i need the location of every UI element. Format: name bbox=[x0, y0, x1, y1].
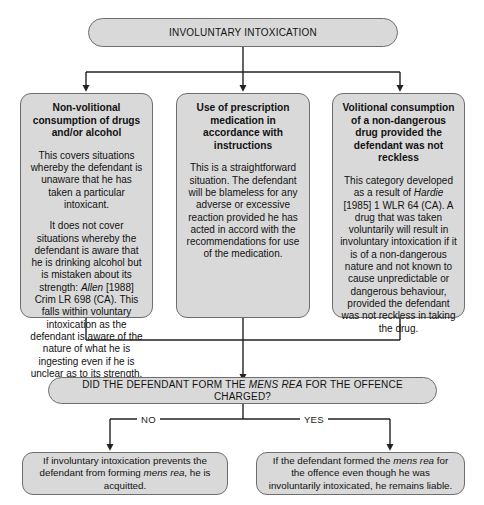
branch-heading: Volitional consumption of a non-dangerou… bbox=[340, 102, 457, 165]
flowchart-canvas: INVOLUNTARY INTOXICATION Non-volitional … bbox=[0, 0, 484, 505]
branch-paragraph: This covers situations whereby the defen… bbox=[28, 150, 145, 211]
decision-node-label: DID THE DEFENDANT FORM THE MENS REA FOR … bbox=[49, 379, 436, 403]
decision-emphasis: MENS REA bbox=[249, 379, 303, 390]
branch-box-non-volitional[interactable]: Non-volitional consumption of drugs and/… bbox=[20, 93, 153, 318]
outcome-emphasis: mens rea bbox=[144, 467, 185, 478]
outcome-box-remains-liable[interactable]: If the defendant formed the mens rea for… bbox=[256, 452, 465, 495]
outcome-emphasis: mens rea bbox=[393, 455, 434, 466]
branch-label-yes: YES bbox=[300, 414, 328, 425]
branch-heading: Use of prescription medication in accord… bbox=[184, 102, 302, 152]
branch-box-non-dangerous-drug[interactable]: Volitional consumption of a non-dangerou… bbox=[332, 93, 465, 318]
outcome-box-acquitted[interactable]: If involuntary intoxication prevents the… bbox=[22, 452, 228, 495]
root-node-label: INVOLUNTARY INTOXICATION bbox=[155, 27, 331, 39]
outcome-label: If the defendant formed the mens rea for… bbox=[257, 455, 464, 492]
case-citation-hardie: Hardie bbox=[414, 187, 443, 198]
decision-node-mens-rea[interactable]: DID THE DEFENDANT FORM THE MENS REA FOR … bbox=[48, 377, 437, 404]
branch-paragraph-citation: This category developed as a result of H… bbox=[340, 175, 457, 335]
branch-label-no: NO bbox=[137, 414, 160, 425]
branch-heading: Non-volitional consumption of drugs and/… bbox=[28, 102, 145, 140]
branch-box-prescription-medication[interactable]: Use of prescription medication in accord… bbox=[176, 93, 310, 318]
case-citation-allen: Allen bbox=[81, 282, 103, 293]
branch-paragraph: This is a straightforward situation. The… bbox=[184, 162, 302, 260]
outcome-label: If involuntary intoxication prevents the… bbox=[23, 455, 227, 492]
branch-paragraph-citation: It does not cover situations whereby the… bbox=[28, 220, 145, 380]
root-node-involuntary-intoxication[interactable]: INVOLUNTARY INTOXICATION bbox=[88, 18, 398, 47]
